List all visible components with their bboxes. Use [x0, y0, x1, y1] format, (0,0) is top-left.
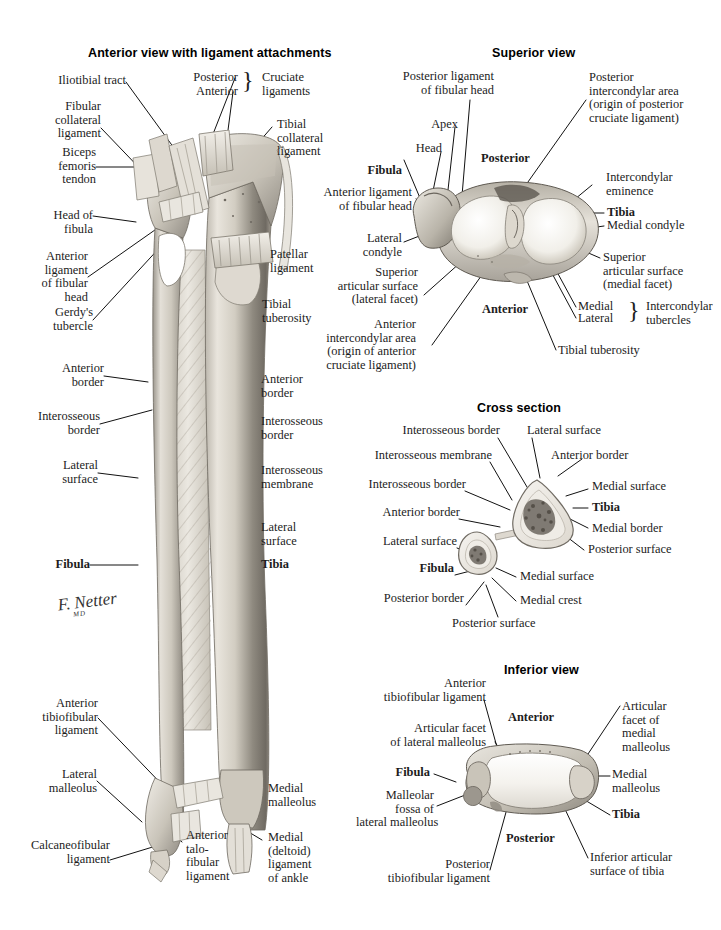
label-biceps-femoris-tendon: Biceps femoris tendon: [18, 146, 96, 187]
label-inf-articular-facet-of-medial-malleolus: Articular facet of medial malleolus: [622, 700, 696, 754]
label-anterior-superior: Anterior: [482, 303, 552, 317]
label-inf-medial-malleolus: Medial malleolus: [612, 768, 686, 795]
label-tibia-anterior: Tibia: [261, 558, 319, 572]
label-inf-fibula: Fibula: [374, 766, 430, 780]
label-intercondylar-eminence: Intercondylar eminence: [606, 171, 704, 198]
label-anterior-intercondylar-area: Anterior intercondylar area (origin of a…: [296, 318, 416, 372]
label-xs-interosseous-border-mid: Interosseous border: [344, 478, 466, 492]
label-interosseous-membrane: Interosseous membrane: [261, 464, 349, 491]
label-anterior-border-right: Anterior border: [261, 373, 341, 400]
label-cruciate-ligaments: Cruciate ligaments: [262, 71, 344, 98]
label-lateral-tubercle: Lateral: [578, 312, 628, 326]
superior-view-title: Superior view: [492, 46, 575, 60]
label-anterior-talofibular-ligament: Anterior talo- fibular ligament: [186, 829, 252, 883]
cruciate-brace: }: [242, 68, 254, 92]
label-posterior-intercondylar-area: Posterior intercondylar area (origin of …: [589, 71, 715, 125]
label-anterior-border-left: Anterior border: [28, 362, 104, 389]
label-lateral-malleolus: Lateral malleolus: [22, 768, 97, 795]
label-xs-lateral-surface-left: Lateral surface: [362, 535, 457, 549]
cross-section-title: Cross section: [477, 401, 561, 415]
label-inf-malleolar-fossa: Malleolar fossa of lateral malleolus: [356, 789, 434, 830]
label-head-of-fibula: Head of fibula: [20, 209, 93, 236]
label-medial-malleolus: Medial malleolus: [268, 782, 338, 809]
label-head-superior: Head: [384, 142, 442, 156]
label-xs-anterior-border-right: Anterior border: [551, 449, 655, 463]
label-inf-posterior-tibiofibular-ligament: Posterior tibiofibular ligament: [370, 858, 490, 885]
label-gerdys-tubercle: Gerdy's tubercle: [20, 306, 93, 333]
label-xs-posterior-surface-bottom: Posterior surface: [452, 617, 562, 631]
label-xs-tibia: Tibia: [592, 501, 648, 515]
label-superior-articular-surface-medial-facet: Superior articular surface (medial facet…: [603, 251, 713, 292]
label-interosseous-border-right: Interosseous border: [261, 415, 349, 442]
label-lateral-condyle: Lateral condyle: [334, 232, 402, 259]
label-medial-condyle: Medial condyle: [607, 219, 705, 233]
label-fibula-superior: Fibula: [348, 164, 402, 178]
label-interosseous-border-left: Interosseous border: [10, 410, 100, 437]
label-lateral-surface-right: Lateral surface: [261, 521, 339, 548]
label-inf-inferior-articular-surface-of-tibia: Inferior articular surface of tibia: [590, 851, 708, 878]
label-anterior-tibiofibular-ligament: Anterior tibiofibular ligament: [12, 697, 98, 738]
label-xs-posterior-surface-tibia: Posterior surface: [588, 543, 698, 557]
label-anterior-ligament-of-fibular-head: Anterior ligament of fibular head: [14, 250, 88, 304]
label-fibula-anterior: Fibula: [32, 558, 90, 572]
artist-signature: F. Netter MD: [57, 588, 119, 620]
inferior-view-artwork: [448, 740, 608, 822]
label-calcaneofibular-ligament: Calcaneofibular ligament: [8, 839, 110, 866]
label-posterior-ligament-of-fibular-head: Posterior ligament of fibular head: [378, 70, 494, 97]
label-posterior-superior: Posterior: [481, 152, 551, 166]
anterior-view-artwork: [125, 130, 310, 890]
intercondylar-tubercles-brace: }: [628, 298, 640, 322]
label-iliotibial-tract: Iliotibial tract: [26, 74, 126, 88]
label-xs-posterior-border: Posterior border: [356, 592, 464, 606]
label-xs-medial-surface-tibia: Medial surface: [592, 480, 692, 494]
label-anterior-cruciate: Anterior: [178, 85, 238, 99]
label-inf-anterior-tibiofibular-ligament: Anterior tibiofibular ligament: [370, 677, 486, 704]
label-tibial-collateral-ligament: Tibial collateral ligament: [277, 118, 355, 159]
label-xs-lateral-surface-top: Lateral surface: [527, 424, 627, 438]
label-xs-interosseous-border-top: Interosseous border: [378, 424, 500, 438]
label-xs-anterior-border-left: Anterior border: [362, 506, 460, 520]
label-xs-medial-crest: Medial crest: [520, 594, 610, 608]
label-superior-articular-surface-lateral-facet: Superior articular surface (lateral face…: [310, 266, 418, 307]
anterior-view-title: Anterior view with ligament attachments: [88, 46, 332, 60]
label-inf-anterior: Anterior: [508, 711, 578, 725]
label-posterior-cruciate: Posterior: [178, 71, 238, 85]
label-inf-articular-facet-of-lateral-malleolus: Articular facet of lateral malleolus: [358, 722, 486, 749]
label-fibular-collateral-ligament: Fibular collateral ligament: [16, 100, 101, 141]
label-apex: Apex: [400, 118, 458, 132]
label-xs-interosseous-membrane: Interosseous membrane: [358, 449, 492, 463]
label-xs-medial-surface-fibula: Medial surface: [520, 570, 620, 584]
inferior-view-title: Inferior view: [504, 663, 579, 677]
label-inf-posterior: Posterior: [506, 832, 580, 846]
label-medial-deltoid-ligament-of-ankle-text: Medial (deltoid) ligament of ankle: [268, 831, 340, 885]
label-anterior-ligament-of-fibular-head-superior: Anterior ligament of fibular head: [300, 186, 412, 213]
label-xs-fibula: Fibula: [398, 562, 454, 576]
label-intercondylar-tubercles: Intercondylar tubercles: [646, 300, 721, 327]
label-tibial-tuberosity-superior: Tibial tuberosity: [558, 344, 668, 358]
label-lateral-surface-left: Lateral surface: [24, 459, 98, 486]
label-inf-tibia: Tibia: [612, 808, 668, 822]
superior-view-artwork: [408, 176, 616, 291]
label-xs-medial-border: Medial border: [592, 522, 688, 536]
